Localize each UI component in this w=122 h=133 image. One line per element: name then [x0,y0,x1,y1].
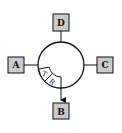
node-label-c: C [101,60,108,70]
node-b: B [53,103,69,119]
node-label-a: A [12,60,21,70]
ring-diagram: T R D A C B [0,0,122,133]
node-label-b: B [57,107,65,117]
node-label-d: D [57,18,65,28]
node-d: D [53,14,69,31]
node-c: C [97,57,113,73]
node-a: A [8,57,24,73]
